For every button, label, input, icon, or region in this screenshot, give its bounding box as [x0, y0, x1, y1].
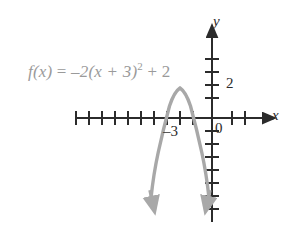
- y-tick-label-2: 2: [226, 75, 234, 92]
- equation-tail: + 2: [147, 62, 170, 81]
- x-tick-label-neg3: –3: [163, 123, 178, 140]
- origin-label: 0: [215, 120, 223, 137]
- parabola-figure: f(x) = –2(x + 3)2 + 2 y x 2 0 –3: [0, 0, 292, 230]
- equation-exponent: 2: [137, 60, 143, 72]
- equation-equals: =: [57, 62, 67, 81]
- y-axis-label: y: [213, 13, 220, 30]
- equation-label: f(x) = –2(x + 3)2 + 2: [28, 60, 170, 82]
- coordinate-plane-svg: [0, 0, 292, 230]
- equation-body: –2(x + 3): [71, 62, 137, 81]
- parabola-curve: [150, 88, 210, 200]
- equation-fx: f(x): [28, 62, 52, 81]
- x-axis-label: x: [272, 107, 279, 124]
